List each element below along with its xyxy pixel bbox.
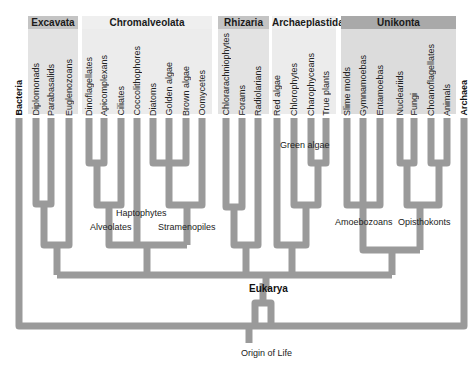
taxon-label-bacteria: Bacteria bbox=[14, 80, 24, 116]
taxon-label-chlorophytes: Chlorophytes bbox=[289, 63, 299, 116]
taxon-label-red-algae: Red algae bbox=[272, 75, 282, 116]
clade-label-green-algae: Green algae bbox=[280, 140, 330, 150]
taxon-label-dinoflagellates: Dinoflagellates bbox=[84, 57, 94, 116]
taxon-label-euglenozoans: Euglenozoans bbox=[64, 59, 74, 116]
taxon-label-coccolithophores: Coccolithophores bbox=[132, 46, 142, 116]
taxon-label-brown-algae: Brown algae bbox=[181, 66, 191, 116]
taxon-label-slime-molds: Slime molds bbox=[342, 67, 352, 116]
taxon-label-chlorarachniophytes: Chlorarachniophytes bbox=[221, 33, 231, 116]
taxon-label-oomycetes: Oomycetes bbox=[197, 70, 207, 116]
clade-label-amoebozoans: Amoebozoans bbox=[335, 217, 393, 227]
taxon-label-parabasalids: Parabasalids bbox=[46, 64, 56, 116]
taxon-label-archaea: Archaea bbox=[459, 80, 469, 116]
clade-label-opisthokonts: Opisthokonts bbox=[398, 217, 451, 227]
taxon-label-diatoms: Diatoms bbox=[148, 83, 158, 116]
tree-of-life-diagram: ExcavataChromalveolataRhizariaArchaeplas… bbox=[0, 0, 476, 366]
taxon-label-diplomonads: Diplomonads bbox=[31, 63, 41, 116]
clade-label-haptophytes: Haptophytes bbox=[116, 208, 167, 218]
taxon-label-choanoflagellates: Choanoflagellates bbox=[426, 44, 436, 116]
taxon-label-ciliates: Ciliates bbox=[116, 86, 126, 116]
clade-label-eukarya: Eukarya bbox=[249, 283, 288, 294]
taxon-label-radiolarians: Radiolarians bbox=[253, 66, 263, 116]
taxon-label-fungi: Fungi bbox=[409, 93, 419, 116]
taxon-label-charophyceans: Charophyceans bbox=[306, 53, 316, 116]
clade-label-stramenopiles: Stramenopiles bbox=[158, 222, 216, 232]
phylogenetic-tree-branches bbox=[0, 0, 476, 366]
taxon-label-golden-algae: Golden algae bbox=[164, 62, 174, 116]
taxon-label-true-plants: True plants bbox=[321, 71, 331, 116]
taxon-label-nucleariids: Nucleariids bbox=[395, 71, 405, 116]
taxon-label-apicomplexans: Apicomplexans bbox=[99, 55, 109, 116]
taxon-label-entamoebas: Entamoebas bbox=[375, 65, 385, 116]
clade-label-alveolates: Alveolates bbox=[90, 222, 132, 232]
clade-label-origin-of-life: Origin of Life bbox=[241, 348, 292, 358]
taxon-label-animals: Animals bbox=[442, 84, 452, 116]
taxon-label-gymnamoebas: Gymnamoebas bbox=[358, 55, 368, 116]
taxon-label-forams: Forams bbox=[237, 85, 247, 116]
